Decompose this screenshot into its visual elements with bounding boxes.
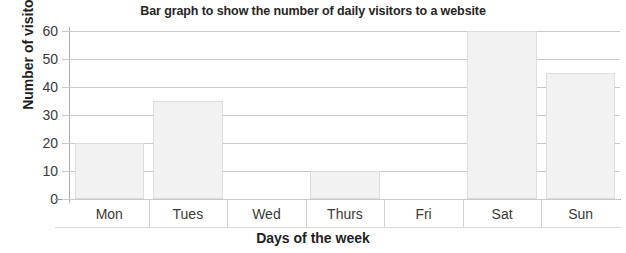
category-divider xyxy=(463,200,464,228)
y-axis-tick-mark xyxy=(62,59,70,60)
y-axis-tick-mark xyxy=(62,171,70,172)
y-axis-tick-mark xyxy=(62,199,70,200)
y-axis-tick-mark xyxy=(62,143,70,144)
y-axis-tick-label: 30 xyxy=(22,108,58,122)
y-axis-tick-mark xyxy=(62,87,70,88)
y-axis-tick-label: 20 xyxy=(22,136,58,150)
bar xyxy=(310,171,380,199)
category-band-bottom-rule xyxy=(55,227,621,228)
y-axis-tick-label: 60 xyxy=(22,24,58,38)
chart-title: Bar graph to show the number of daily vi… xyxy=(0,4,626,18)
category-divider xyxy=(541,200,542,228)
bar-chart: Bar graph to show the number of daily vi… xyxy=(0,0,626,253)
x-axis-category-label: Thurs xyxy=(306,200,385,228)
x-axis-category-label: Mon xyxy=(70,200,149,228)
bar xyxy=(153,101,223,199)
category-divider xyxy=(384,200,385,228)
x-axis-category-label: Sun xyxy=(541,200,620,228)
y-axis-tick-mark xyxy=(62,115,70,116)
plot-area xyxy=(70,31,620,199)
y-axis-tick-label: 40 xyxy=(22,80,58,94)
y-axis-tick-label: 50 xyxy=(22,52,58,66)
y-axis-tick-mark xyxy=(62,31,70,32)
x-axis-category-label: Sat xyxy=(463,200,542,228)
y-axis-tick-label: 10 xyxy=(22,164,58,178)
gridline xyxy=(70,31,620,32)
category-divider xyxy=(306,200,307,228)
bar xyxy=(75,143,145,199)
gridline xyxy=(70,87,620,88)
x-axis-title: Days of the week xyxy=(0,230,626,246)
x-axis-category-label: Wed xyxy=(227,200,306,228)
category-divider xyxy=(149,200,150,228)
gridline xyxy=(70,59,620,60)
bar xyxy=(546,73,616,199)
x-axis-category-band: MonTuesWedThursFriSatSun xyxy=(70,200,620,228)
x-axis-category-label: Fri xyxy=(384,200,463,228)
y-axis-tick-labels: 6050403020100 xyxy=(18,0,58,253)
x-axis-category-label: Tues xyxy=(149,200,228,228)
bar xyxy=(467,31,537,199)
y-axis-tick-label: 0 xyxy=(22,192,58,206)
category-divider xyxy=(227,200,228,228)
